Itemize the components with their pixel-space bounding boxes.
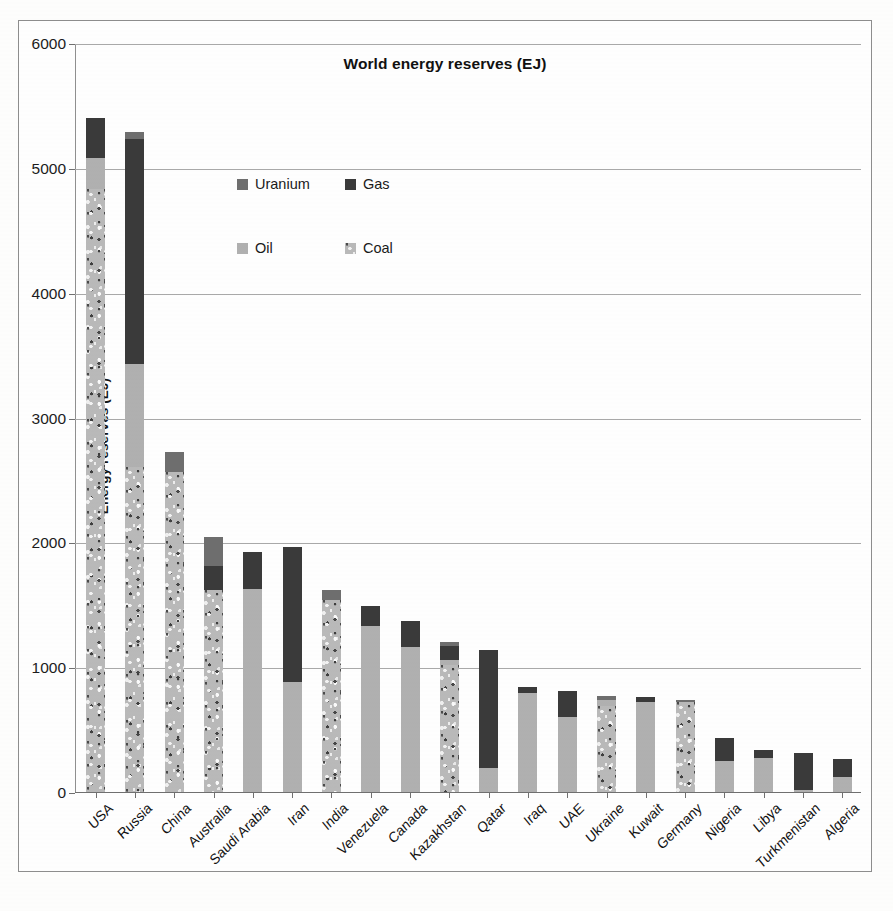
bar-segment-coal[interactable] <box>204 590 223 792</box>
bar-segment-coal[interactable] <box>322 600 341 792</box>
x-tick-mark <box>646 792 647 798</box>
bar-segment-gas[interactable] <box>401 621 420 647</box>
y-tick-label: 2000 <box>32 534 66 552</box>
bar-segment-gas[interactable] <box>558 691 577 717</box>
bar-segment-oil[interactable] <box>440 660 459 665</box>
legend-item-coal[interactable]: Coal <box>345 240 452 256</box>
x-axis-label: Iran <box>284 800 312 828</box>
y-tick-mark <box>69 44 75 45</box>
x-tick-mark <box>607 792 608 798</box>
bar-stack[interactable] <box>361 606 380 792</box>
y-tick-mark <box>69 793 75 794</box>
x-tick-mark <box>174 792 175 798</box>
bar-stack[interactable] <box>243 552 262 792</box>
bar-segment-oil[interactable] <box>833 777 852 792</box>
bar-segment-uranium[interactable] <box>204 537 223 566</box>
bar-segment-oil[interactable] <box>125 364 144 468</box>
x-tick-mark <box>685 792 686 798</box>
x-tick-mark <box>331 792 332 798</box>
bar-segment-gas[interactable] <box>833 759 852 777</box>
x-tick-mark <box>489 792 490 798</box>
y-tick-label: 6000 <box>32 35 66 53</box>
x-tick-mark <box>410 792 411 798</box>
bar-stack[interactable] <box>558 691 577 792</box>
bar-stack[interactable] <box>125 132 144 792</box>
bar-segment-gas[interactable] <box>125 139 144 364</box>
bar-stack[interactable] <box>401 621 420 792</box>
y-tick-label: 1000 <box>32 659 66 677</box>
bar-segment-gas[interactable] <box>361 606 380 626</box>
x-tick-mark <box>135 792 136 798</box>
bar-segment-oil[interactable] <box>479 768 498 792</box>
y-tick-label: 3000 <box>32 410 66 428</box>
bar-segment-oil[interactable] <box>86 158 105 189</box>
bar-stack[interactable] <box>165 452 184 792</box>
x-axis-labels: USARussiaChinaAustraliaSaudi ArabiaIranI… <box>76 800 862 900</box>
x-axis-label: USA <box>84 800 116 832</box>
bar-segment-coal[interactable] <box>86 189 105 792</box>
bar-stack[interactable] <box>833 759 852 792</box>
bar-segment-oil[interactable] <box>715 761 734 792</box>
bar-segment-oil[interactable] <box>597 700 616 706</box>
bar-segment-gas[interactable] <box>243 552 262 588</box>
bar-segment-coal[interactable] <box>676 702 695 792</box>
bar-segment-gas[interactable] <box>794 753 813 789</box>
bar-segment-gas[interactable] <box>715 738 734 760</box>
bar-segment-uranium[interactable] <box>165 452 184 472</box>
x-tick-mark <box>528 792 529 798</box>
bar-segment-oil[interactable] <box>401 647 420 792</box>
bar-stack[interactable] <box>597 696 616 792</box>
bar-segment-coal[interactable] <box>440 665 459 792</box>
chart-frame: World energy reserves (EJ) Energy reserv… <box>18 20 872 872</box>
x-tick-mark <box>214 792 215 798</box>
x-axis-label: Ukraine <box>581 800 626 845</box>
bar-segment-uranium[interactable] <box>440 642 459 646</box>
bar-segment-coal[interactable] <box>165 472 184 792</box>
bar-series-container <box>76 44 861 792</box>
bar-stack[interactable] <box>518 687 537 792</box>
bar-stack[interactable] <box>676 700 695 792</box>
legend-item-gas[interactable]: Gas <box>345 176 452 192</box>
x-tick-mark <box>253 792 254 798</box>
chart-legend: UraniumGasOilCoal <box>237 176 452 256</box>
bar-segment-gas[interactable] <box>636 697 655 702</box>
bar-segment-coal[interactable] <box>597 706 616 792</box>
bar-segment-oil[interactable] <box>518 693 537 792</box>
bar-segment-gas[interactable] <box>283 547 302 682</box>
bar-segment-gas[interactable] <box>479 650 498 769</box>
bar-segment-oil[interactable] <box>558 717 577 792</box>
legend-swatch-oil-icon <box>237 243 248 254</box>
bar-stack[interactable] <box>204 537 223 792</box>
bar-stack[interactable] <box>283 547 302 792</box>
bar-segment-uranium[interactable] <box>676 700 695 702</box>
legend-item-uranium[interactable]: Uranium <box>237 176 345 192</box>
x-tick-mark <box>764 792 765 798</box>
bar-stack[interactable] <box>322 590 341 792</box>
bar-segment-uranium[interactable] <box>322 590 341 600</box>
bar-stack[interactable] <box>479 650 498 792</box>
bar-segment-oil[interactable] <box>636 702 655 792</box>
y-tick-label: 5000 <box>32 160 66 178</box>
bar-stack[interactable] <box>754 750 773 792</box>
bar-segment-gas[interactable] <box>86 118 105 158</box>
bar-segment-coal[interactable] <box>125 467 144 792</box>
bar-segment-oil[interactable] <box>361 626 380 792</box>
bar-segment-gas[interactable] <box>440 646 459 660</box>
bar-segment-gas[interactable] <box>754 750 773 759</box>
bar-segment-uranium[interactable] <box>125 132 144 139</box>
bar-segment-uranium[interactable] <box>597 696 616 700</box>
bar-segment-oil[interactable] <box>243 589 262 792</box>
bar-segment-gas[interactable] <box>518 687 537 693</box>
bar-segment-oil[interactable] <box>283 682 302 792</box>
bar-stack[interactable] <box>440 642 459 792</box>
x-axis-line <box>75 792 861 793</box>
bar-stack[interactable] <box>636 697 655 792</box>
bar-segment-gas[interactable] <box>204 566 223 590</box>
bar-stack[interactable] <box>86 118 105 792</box>
bar-segment-oil[interactable] <box>754 758 773 792</box>
bar-stack[interactable] <box>715 738 734 792</box>
legend-item-oil[interactable]: Oil <box>237 240 345 256</box>
legend-swatch-gas-icon <box>345 179 356 190</box>
scanned-chart-page: World energy reserves (EJ) Energy reserv… <box>0 0 893 911</box>
bar-stack[interactable] <box>794 753 813 792</box>
